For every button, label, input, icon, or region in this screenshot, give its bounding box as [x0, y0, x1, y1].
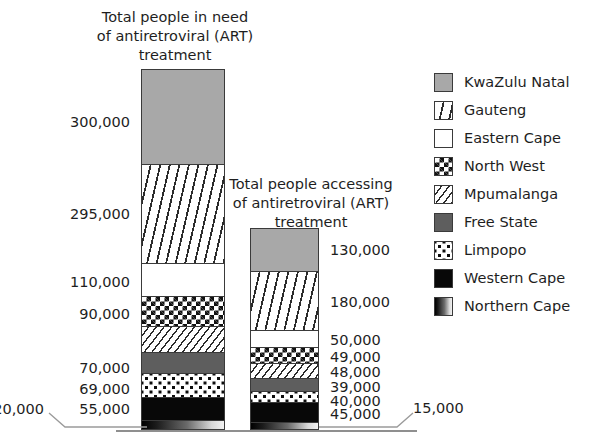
legend-label-kwazulu-natal: KwaZulu Natal	[464, 74, 570, 90]
value-label-access-north-west: 49,000	[330, 349, 381, 365]
value-label-need-gauteng: 295,000	[20, 206, 130, 222]
legend-item-mpumalanga[interactable]: Mpumalanga	[434, 180, 570, 208]
legend-item-eastern-cape[interactable]: Eastern Cape	[434, 124, 570, 152]
legend-item-north-west[interactable]: North West	[434, 152, 570, 180]
segment-kwazulu-natal	[142, 70, 224, 165]
segment-mpumalanga	[142, 327, 224, 354]
segment-northern-cape	[142, 421, 224, 429]
segment-free-state	[251, 379, 318, 392]
legend-swatch-gauteng-icon	[434, 101, 453, 120]
legend-swatch-free-state-icon	[434, 213, 453, 232]
stacked-bar-people-in-need	[141, 69, 225, 430]
legend-swatch-western-cape-icon	[434, 269, 453, 288]
legend-item-northern-cape[interactable]: Northern Cape	[434, 292, 570, 320]
baseline-middle	[229, 430, 321, 432]
value-label-need-eastern-cape: 110,000	[20, 274, 130, 290]
value-label-need-north-west: 90,000	[20, 306, 130, 322]
bar-title-people-in-need: Total people in need of antiretroviral (…	[68, 8, 282, 65]
value-label-access-gauteng: 180,000	[330, 294, 390, 310]
legend-label-gauteng: Gauteng	[464, 102, 526, 118]
legend-label-north-west: North West	[464, 158, 545, 174]
legend-swatch-northern-cape-icon	[434, 297, 453, 316]
legend-item-gauteng[interactable]: Gauteng	[434, 96, 570, 124]
legend-swatch-eastern-cape-icon	[434, 129, 453, 148]
segment-western-cape	[251, 403, 318, 423]
baseline-left	[116, 430, 229, 432]
value-label-need-western-cape: 20,000	[0, 401, 44, 417]
value-label-need-kwazulu-natal: 300,000	[20, 114, 130, 130]
legend-swatch-limpopo-icon	[434, 241, 453, 260]
segment-gauteng	[251, 272, 318, 331]
value-label-access-kwazulu-natal: 130,000	[330, 242, 390, 258]
baseline-right	[321, 430, 417, 432]
chart-canvas: Total people in need of antiretroviral (…	[0, 0, 591, 446]
segment-gauteng	[142, 165, 224, 263]
legend-label-mpumalanga: Mpumalanga	[464, 186, 558, 202]
value-label-need-free-state: 69,000	[20, 381, 130, 397]
segment-limpopo	[251, 392, 318, 403]
segment-northern-cape	[251, 423, 318, 429]
bar-title-people-accessing: Total people accessing of antiretroviral…	[220, 175, 402, 232]
value-label-access-mpumalanga: 48,000	[330, 364, 381, 380]
legend-item-limpopo[interactable]: Limpopo	[434, 236, 570, 264]
legend-label-eastern-cape: Eastern Cape	[464, 130, 561, 146]
segment-free-state	[142, 353, 224, 374]
segment-kwazulu-natal	[251, 229, 318, 272]
legend-item-kwazulu-natal[interactable]: KwaZulu Natal	[434, 68, 570, 96]
legend-swatch-north-west-icon	[434, 157, 453, 176]
legend-label-limpopo: Limpopo	[464, 242, 526, 258]
legend-swatch-kwazulu-natal-icon	[434, 73, 453, 92]
segment-western-cape	[142, 398, 224, 421]
value-label-access-eastern-cape: 50,000	[330, 332, 381, 348]
value-label-need-mpumalanga: 70,000	[20, 360, 130, 376]
legend-label-northern-cape: Northern Cape	[464, 298, 570, 314]
legend-label-free-state: Free State	[464, 214, 538, 230]
value-label-access-northern-cape: 15,000	[413, 400, 464, 416]
segment-north-west	[251, 348, 318, 364]
segment-north-west	[142, 297, 224, 327]
segment-mpumalanga	[251, 364, 318, 379]
segment-eastern-cape	[142, 264, 224, 297]
segment-limpopo	[142, 374, 224, 398]
legend-label-western-cape: Western Cape	[464, 270, 565, 286]
legend-item-free-state[interactable]: Free State	[434, 208, 570, 236]
legend-item-western-cape[interactable]: Western Cape	[434, 264, 570, 292]
legend: KwaZulu Natal Gauteng Eastern Cape North…	[434, 68, 570, 320]
stacked-bar-people-accessing	[250, 228, 319, 430]
segment-eastern-cape	[251, 331, 318, 348]
legend-swatch-mpumalanga-icon	[434, 185, 453, 204]
